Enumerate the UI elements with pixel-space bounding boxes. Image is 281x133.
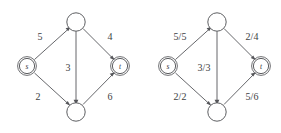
edge-label-u-v: 3/3 [198,62,211,73]
node-v-bottom[interactable] [208,103,226,121]
edge-u-to-v [215,31,220,105]
edge-label-v-t: 5/6 [246,91,259,102]
capacity-network-panel: s t 5 4 3 2 6 [0,0,140,133]
capacity-network-svg: s t 5 4 3 2 6 [0,0,140,133]
node-u-top[interactable] [67,13,85,31]
edge-label-s-v: 2 [36,91,41,102]
edge-label-s-v: 2/2 [174,91,187,102]
node-v-bottom[interactable] [67,103,85,121]
flow-network-panel: s t 5/5 2/4 3/3 2/2 5/6 [141,0,281,133]
node-s-label: s [26,62,29,71]
flow-network-figure: s t 5 4 3 2 6 [0,0,281,133]
edge-label-u-t: 4 [108,31,113,42]
flow-network-svg: s t 5/5 2/4 3/3 2/2 5/6 [141,0,281,133]
node-s-source[interactable]: s [159,57,178,76]
edge-label-s-u: 5/5 [174,31,187,42]
edge-label-u-v: 3 [66,62,71,73]
edge-label-u-t: 2/4 [246,31,259,42]
node-t-sink[interactable]: t [111,57,130,76]
node-s-source[interactable]: s [18,57,37,76]
edge-u-to-v [74,31,79,105]
edge-label-v-t: 6 [108,91,113,102]
edge-label-s-u: 5 [38,31,43,42]
node-t-sink[interactable]: t [252,57,271,76]
node-u-top[interactable] [208,13,226,31]
node-s-label: s [167,62,170,71]
